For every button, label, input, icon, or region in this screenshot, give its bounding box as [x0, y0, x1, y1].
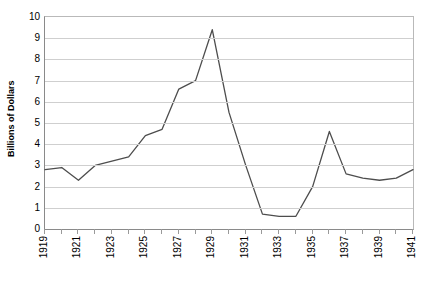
x-tick-mark: [379, 229, 380, 234]
y-tick-label: 5: [6, 117, 44, 128]
y-tick-label: 2: [6, 180, 44, 191]
x-tick-mark: [94, 229, 95, 234]
gridline: [45, 144, 413, 145]
x-tick-mark: [228, 229, 229, 234]
x-tick-label: 1937: [340, 236, 350, 258]
x-tick-mark: [77, 229, 78, 234]
x-tick-label: 1921: [72, 236, 82, 258]
x-tick-mark: [362, 229, 363, 234]
x-tick-mark: [61, 229, 62, 234]
x-tick-mark: [161, 229, 162, 234]
x-tick-mark: [144, 229, 145, 234]
x-tick-mark: [278, 229, 279, 234]
x-tick-mark: [178, 229, 179, 234]
x-tick-mark: [261, 229, 262, 234]
gridline: [45, 81, 413, 82]
y-tick-label: 3: [6, 159, 44, 170]
x-tick-label: 1919: [39, 236, 49, 258]
x-tick-label: 1929: [206, 236, 216, 258]
x-tick-mark: [345, 229, 346, 234]
y-tick-label: 1: [6, 201, 44, 212]
gridline: [45, 208, 413, 209]
y-tick-label: 7: [6, 74, 44, 85]
plot-area: [44, 16, 414, 230]
x-tick-mark: [245, 229, 246, 234]
x-tick-mark: [195, 229, 196, 234]
y-tick-label: 6: [6, 95, 44, 106]
x-tick-mark: [295, 229, 296, 234]
y-tick-label: 9: [6, 32, 44, 43]
y-tick-label: 0: [6, 223, 44, 234]
x-tick-mark: [412, 229, 413, 234]
x-tick-label: 1931: [240, 236, 250, 258]
x-tick-label: 1939: [374, 236, 384, 258]
gridline: [45, 38, 413, 39]
gridline: [45, 187, 413, 188]
gridline: [45, 59, 413, 60]
y-tick-label: 4: [6, 138, 44, 149]
x-tick-label: 1933: [273, 236, 283, 258]
x-tick-label: 1935: [307, 236, 317, 258]
x-tick-label: 1923: [106, 236, 116, 258]
x-tick-label: 1927: [173, 236, 183, 258]
x-tick-mark: [395, 229, 396, 234]
gridline: [45, 165, 413, 166]
y-tick-label: 10: [6, 11, 44, 22]
x-tick-label: 1941: [407, 236, 417, 258]
x-tick-mark: [328, 229, 329, 234]
x-tick-mark: [128, 229, 129, 234]
gridline: [45, 102, 413, 103]
x-tick-label: 1925: [139, 236, 149, 258]
x-tick-mark: [312, 229, 313, 234]
x-tick-mark: [111, 229, 112, 234]
gridline: [45, 123, 413, 124]
x-tick-mark: [211, 229, 212, 234]
x-tick-mark: [44, 229, 45, 234]
chart-container: Billions of Dollars 109876543210 1919192…: [0, 0, 428, 282]
y-tick-label: 8: [6, 53, 44, 64]
